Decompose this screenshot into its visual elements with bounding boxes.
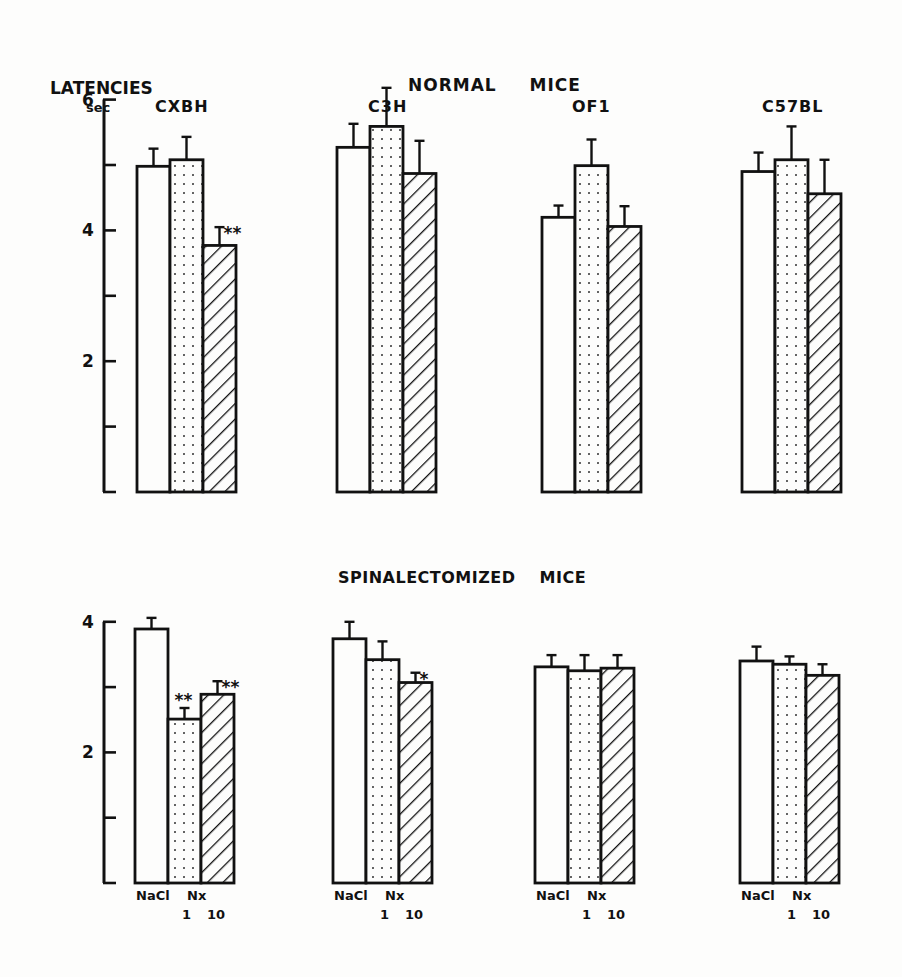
svg-text:10: 10 [607,907,625,922]
bar-group-c57bl: NaClNx110 [740,647,839,922]
bar-open [135,629,168,883]
significance-marker: ** [175,690,193,710]
bar-dotted [366,660,399,883]
normal-mice-panel: 246CXBH**C3HOF1C57BL [82,88,841,492]
figure: LATENCIES sec NORMAL MICE SPINALECTOMIZE… [0,0,902,977]
x-axis-labels: NaClNx110 [741,888,830,922]
bar-hatched [808,194,841,492]
bar-dotted [168,719,201,883]
bar-open [535,667,568,883]
y-tick-label: 2 [82,742,94,762]
bar-hatched [399,683,432,883]
significance-marker: ** [222,677,240,697]
bar-open [337,147,370,492]
bar-dotted [575,166,608,492]
top-panel-title: NORMAL MICE [408,75,581,95]
significance-marker: ** [224,223,242,243]
significance-marker: * [420,669,429,689]
bar-hatched [608,226,641,492]
svg-text:10: 10 [405,907,423,922]
y-axis: 246 [82,90,116,492]
bar-open [137,166,170,492]
bar-dotted [775,160,808,492]
bar-hatched [806,675,839,883]
svg-text:Nx: Nx [587,888,607,903]
bar-hatched [201,694,234,883]
svg-text:1: 1 [582,907,591,922]
bar-open [333,639,366,883]
bar-dotted [370,126,403,492]
spinalectomized-mice-panel: 24****NaClNx110*NaClNx110NaClNx110NaClNx… [82,612,839,922]
bar-open [742,172,775,492]
svg-text:NaCl: NaCl [536,888,570,903]
bar-group-c57bl: C57BL [742,97,841,492]
y-tick-label: 6 [82,90,94,110]
bar-group-c3h: *NaClNx110 [333,622,432,922]
svg-text:NaCl: NaCl [334,888,368,903]
y-tick-label: 4 [82,220,94,240]
bar-hatched [203,245,236,492]
svg-text:1: 1 [787,907,796,922]
strain-label: CXBH [155,97,209,116]
svg-text:Nx: Nx [792,888,812,903]
bar-open [542,217,575,492]
y-axis: 24 [82,612,116,883]
bar-chart-figure: LATENCIES sec NORMAL MICE SPINALECTOMIZE… [0,0,902,977]
bar-hatched [601,668,634,883]
strain-label: OF1 [572,97,611,116]
svg-text:1: 1 [182,907,191,922]
svg-text:Nx: Nx [187,888,207,903]
y-axis-title: LATENCIES [50,78,153,98]
y-tick-label: 2 [82,351,94,371]
bar-group-cxbh: ****NaClNx110 [135,618,239,922]
bar-dotted [773,664,806,883]
svg-text:10: 10 [812,907,830,922]
svg-text:Nx: Nx [385,888,405,903]
bar-group-c3h: C3H [337,88,436,492]
bar-group-cxbh: CXBH** [137,97,241,492]
svg-text:10: 10 [207,907,225,922]
bar-group-of1: NaClNx110 [535,655,634,922]
bar-hatched [403,174,436,492]
x-axis-labels: NaClNx110 [136,888,225,922]
y-tick-label: 4 [82,612,94,632]
x-axis-labels: NaClNx110 [334,888,423,922]
svg-text:1: 1 [380,907,389,922]
bar-dotted [568,671,601,883]
bar-dotted [170,160,203,492]
svg-text:NaCl: NaCl [136,888,170,903]
bar-group-of1: OF1 [542,97,641,492]
bottom-panel-title: SPINALECTOMIZED MICE [338,568,586,587]
bar-open [740,661,773,883]
x-axis-labels: NaClNx110 [536,888,625,922]
svg-text:NaCl: NaCl [741,888,775,903]
strain-label: C57BL [762,97,823,116]
